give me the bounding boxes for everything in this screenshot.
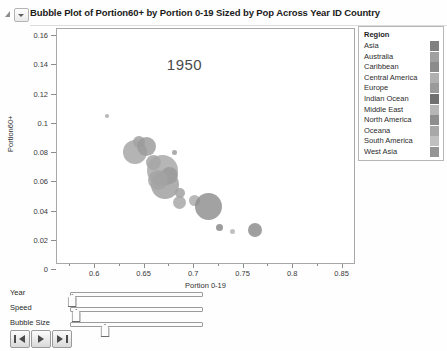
x-axis-tick: [292, 264, 293, 268]
slider-row-bubble-size: Bubble Size: [10, 317, 210, 331]
x-axis-tick-label: 0.6: [89, 269, 99, 278]
x-axis: 0.60.650.70.750.80.85: [56, 264, 355, 280]
legend-color-swatch: [430, 147, 439, 157]
legend-panel[interactable]: Region AsiaAustraliaCaribbeanCentral Ame…: [358, 26, 444, 161]
legend-item[interactable]: North America: [364, 115, 440, 125]
page-title: Bubble Plot of Portion60+ by Portion 0-1…: [30, 7, 380, 18]
play-button[interactable]: [31, 330, 51, 348]
slider-track[interactable]: [70, 322, 203, 327]
bubble-point[interactable]: [137, 137, 156, 156]
legend-item-label: West Asia: [364, 147, 397, 156]
bubble-point[interactable]: [195, 193, 222, 220]
legend-item-label: Indian Ocean: [364, 94, 409, 103]
bubble-point[interactable]: [105, 114, 109, 118]
x-axis-tick-label: 0.8: [287, 269, 297, 278]
legend-item-label: South America: [364, 136, 413, 145]
legend-item[interactable]: Central America: [364, 73, 440, 83]
x-axis-minor-tick: [317, 264, 318, 266]
bubble-point[interactable]: [148, 170, 168, 190]
x-axis-minor-tick: [69, 264, 70, 266]
y-axis-tick-label: 0.16: [33, 31, 48, 40]
y-axis-tick-label: 0.12: [33, 89, 48, 98]
step-back-button[interactable]: [10, 330, 30, 348]
x-axis-tick: [94, 264, 95, 268]
x-axis-tick: [193, 264, 194, 268]
slider-label: Year: [10, 288, 25, 297]
bubble-point[interactable]: [230, 229, 235, 234]
x-axis-tick-label: 0.7: [188, 269, 198, 278]
legend-color-swatch: [430, 52, 439, 62]
chevron-down-icon[interactable]: [14, 8, 29, 22]
bubble-point[interactable]: [248, 223, 262, 237]
x-axis-minor-tick: [168, 264, 169, 266]
x-axis-tick: [243, 264, 244, 268]
slider-track[interactable]: [70, 292, 203, 297]
legend-item[interactable]: Caribbean: [364, 62, 440, 72]
legend-color-swatch: [430, 105, 439, 115]
disclosure-triangle-icon[interactable]: [5, 11, 10, 17]
legend-item[interactable]: Middle East: [364, 105, 440, 115]
x-axis-tick: [342, 264, 343, 268]
legend-item[interactable]: South America: [364, 136, 440, 146]
bubble-plot-window: Bubble Plot of Portion60+ by Portion 0-1…: [0, 0, 447, 351]
x-axis-tick-label: 0.75: [235, 269, 250, 278]
y-axis-tick-label: 0.02: [33, 235, 48, 244]
legend-item-label: Oceana: [364, 126, 390, 135]
plot-frame[interactable]: 1950: [56, 28, 355, 264]
legend-color-swatch: [430, 73, 439, 83]
x-axis-minor-tick: [119, 264, 120, 266]
step-back-bar: [14, 335, 16, 343]
y-axis-title: Portion60+: [6, 116, 15, 153]
bubble-point[interactable]: [216, 224, 223, 231]
x-axis-tick-label: 0.85: [334, 269, 349, 278]
x-axis-tick-label: 0.65: [136, 269, 151, 278]
legend-item-label: Middle East: [364, 105, 403, 114]
slider-label: Speed: [10, 303, 32, 312]
legend-color-swatch: [430, 126, 439, 136]
y-axis: Portion60+ 00.020.040.060.080.10.120.140…: [0, 28, 56, 264]
legend-color-swatch: [430, 83, 439, 93]
slider-label: Bubble Size: [10, 318, 50, 327]
y-axis-tick-label: 0.06: [33, 177, 48, 186]
animation-controls: YearSpeedBubble Size: [0, 284, 447, 351]
legend-color-swatch: [430, 62, 439, 72]
legend-item-label: North America: [364, 115, 412, 124]
year-annotation: 1950: [57, 56, 334, 73]
legend-color-swatch: [430, 94, 439, 104]
legend-item[interactable]: Oceana: [364, 126, 440, 136]
legend-item-label: Asia: [364, 41, 379, 50]
y-axis-tick-label: 0.04: [33, 206, 48, 215]
slider-track[interactable]: [70, 307, 203, 312]
step-forward-button[interactable]: [52, 330, 72, 348]
legend-item[interactable]: Asia: [364, 41, 440, 51]
y-axis-tick-label: 0.08: [33, 148, 48, 157]
slider-row-year: Year: [10, 287, 210, 301]
y-axis-tick-label: 0: [44, 265, 48, 274]
x-axis-tick: [144, 264, 145, 268]
step-forward-icon: [57, 335, 63, 343]
legend-title: Region: [364, 30, 389, 39]
legend-item-label: Europe: [364, 83, 388, 92]
y-axis-tick-label: 0.1: [38, 118, 48, 127]
slider-row-speed: Speed: [10, 302, 210, 316]
legend-item[interactable]: Australia: [364, 52, 440, 62]
play-icon: [38, 335, 44, 343]
legend-item-label: Australia: [364, 52, 393, 61]
step-back-icon: [19, 335, 25, 343]
bubble-point[interactable]: [173, 196, 186, 209]
legend-color-swatch: [430, 115, 439, 125]
legend-color-swatch: [430, 136, 439, 146]
bubble-point[interactable]: [172, 150, 176, 154]
step-forward-bar: [66, 335, 68, 343]
legend-item[interactable]: Indian Ocean: [364, 94, 440, 104]
x-axis-minor-tick: [267, 264, 268, 266]
slider-thumb[interactable]: [101, 324, 110, 337]
x-axis-minor-tick: [218, 264, 219, 266]
legend-item[interactable]: West Asia: [364, 147, 440, 157]
legend-item[interactable]: Europe: [364, 83, 440, 93]
legend-item-label: Caribbean: [364, 62, 399, 71]
legend-item-label: Central America: [364, 73, 417, 82]
plot-canvas[interactable]: 1950: [57, 29, 354, 263]
y-axis-tick-label: 0.14: [33, 60, 48, 69]
plot-titlebar: Bubble Plot of Portion60+ by Portion 0-1…: [0, 6, 447, 22]
